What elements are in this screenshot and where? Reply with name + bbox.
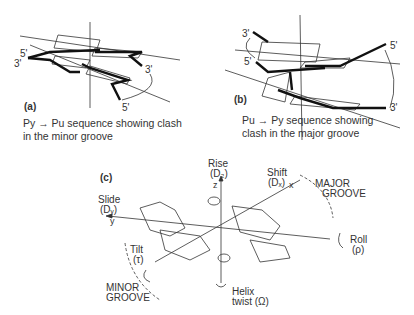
major-groove-label-2: GROOVE [322, 188, 366, 199]
panel-a-end-3-right: 3' [145, 64, 152, 75]
rise-symbol: (D₂) [210, 168, 228, 179]
panel-b-end-3-bottom: 3' [390, 102, 397, 113]
y-axis-label: y [110, 216, 115, 227]
panel-a-label: (a) [24, 101, 36, 112]
panel-a-drawing [20, 22, 180, 108]
panel-a-end-3-left: 3' [14, 58, 21, 69]
helix-twist-label-2: twist (Ω) [232, 296, 269, 307]
x-axis [155, 180, 300, 262]
tilt-symbol: (τ) [133, 254, 144, 265]
panel-b-end-3-top: 3' [242, 28, 249, 39]
panel-b-end-5-left: 5' [244, 56, 251, 67]
roll-symbol: (ρ) [352, 244, 364, 255]
y-axis [108, 216, 330, 239]
panel-b-caption-line1: Pu → Py sequence showing [242, 114, 373, 127]
slide-symbol: (Dᵧ) [100, 204, 117, 215]
panel-b-label: (b) [234, 94, 247, 105]
diagram-canvas [0, 0, 414, 315]
tilt-arrow [144, 270, 150, 282]
panel-a-caption-line1: Py → Pu sequence showing clash [23, 117, 182, 130]
x-axis-label: x [289, 180, 294, 191]
panel-c-label: (c) [100, 172, 112, 183]
panel-a-caption-line2: in the minor groove [23, 130, 182, 143]
panel-c-drawing [106, 175, 343, 300]
minor-groove-label-2: GROOVE [106, 292, 150, 303]
twist-arrow [216, 284, 226, 287]
panel-b-end-5-right: 5' [390, 40, 397, 51]
panel-b-caption: Pu → Py sequence showing clash in the ma… [242, 114, 373, 140]
panel-a-caption: Py → Pu sequence showing clash in the mi… [23, 117, 182, 143]
shift-symbol: (Dₓ) [268, 177, 285, 188]
panel-b-caption-line2: clash in the major groove [242, 127, 373, 140]
panel-a-end-5-bottom: 5' [122, 102, 129, 113]
roll-arrow [339, 233, 343, 248]
z-axis-label: z [213, 180, 218, 191]
